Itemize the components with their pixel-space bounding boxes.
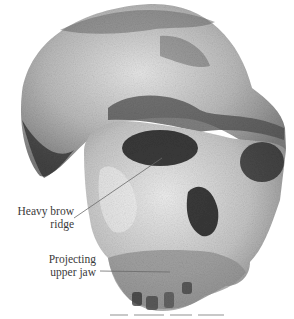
skull-photo [0, 0, 294, 319]
label-line: upper jaw [48, 266, 96, 279]
label-projecting-upper-jaw: Projecting upper jaw [48, 253, 96, 279]
label-line: Heavy brow [16, 205, 74, 218]
cropped-caption-fragment [110, 314, 270, 319]
label-heavy-brow-ridge: Heavy brow ridge [16, 205, 74, 231]
label-line: ridge [16, 218, 74, 231]
figure: Heavy brow ridge Projecting upper jaw [0, 0, 294, 319]
label-line: Projecting [48, 253, 96, 266]
